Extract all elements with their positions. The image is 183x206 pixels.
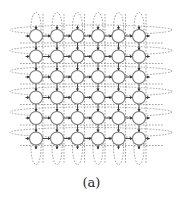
mesh-node <box>30 50 43 63</box>
mesh-node <box>92 112 105 125</box>
mesh-node <box>133 71 146 84</box>
mesh-node <box>112 30 125 43</box>
mesh-node <box>112 71 125 84</box>
mesh-node <box>133 91 146 104</box>
mesh-node <box>71 50 84 63</box>
mesh-node <box>133 30 146 43</box>
mesh-node <box>92 50 105 63</box>
mesh-node <box>30 91 43 104</box>
figure-caption: (a) <box>0 175 183 190</box>
mesh-node <box>51 91 64 104</box>
mesh-node <box>92 30 105 43</box>
mesh-node <box>112 112 125 125</box>
mesh-node <box>51 30 64 43</box>
mesh-node <box>71 91 84 104</box>
mesh-node <box>133 132 146 145</box>
mesh-node <box>112 91 125 104</box>
mesh-node <box>71 71 84 84</box>
mesh-node <box>30 112 43 125</box>
mesh-node <box>133 50 146 63</box>
mesh-node <box>112 132 125 145</box>
mesh-node <box>30 30 43 43</box>
mesh-node <box>51 71 64 84</box>
mesh-edges <box>26 26 150 150</box>
mesh-node <box>92 91 105 104</box>
mesh-node <box>51 132 64 145</box>
mesh-node <box>112 50 125 63</box>
mesh-node <box>71 112 84 125</box>
mesh-node <box>51 50 64 63</box>
mesh-node <box>92 71 105 84</box>
mesh-node <box>51 112 64 125</box>
mesh-node <box>71 132 84 145</box>
mesh-node <box>92 132 105 145</box>
mesh-node <box>71 30 84 43</box>
mesh-node <box>30 132 43 145</box>
mesh-node <box>30 71 43 84</box>
mesh-node <box>133 112 146 125</box>
